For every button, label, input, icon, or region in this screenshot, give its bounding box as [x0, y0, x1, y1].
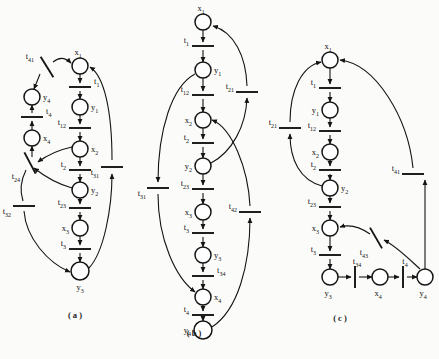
- transition-c-t43[interactable]: [370, 228, 382, 249]
- place-label-a-x2: x2: [91, 144, 98, 156]
- place-b-y1[interactable]: [195, 62, 211, 78]
- place-c-x4[interactable]: [372, 269, 388, 285]
- place-label-c-x1-subscript: 1: [329, 47, 332, 53]
- place-label-b-y3-subscript: 3: [218, 256, 221, 262]
- place-label-b-x4-subscript: 4: [218, 298, 221, 304]
- arc-b-t42-x2: [212, 120, 250, 206]
- place-label-a-y3: y3: [76, 282, 83, 294]
- place-a-x4[interactable]: [24, 130, 40, 146]
- transition-label-a-t3: t3: [61, 238, 66, 250]
- transition-label-c-t41: t41: [392, 163, 400, 175]
- place-b-x2[interactable]: [195, 112, 211, 128]
- place-a-x3[interactable]: [72, 220, 88, 236]
- place-c-x1[interactable]: [322, 52, 338, 68]
- place-label-b-y1-subscript: 1: [218, 71, 221, 77]
- place-label-a-y2: y2: [91, 185, 98, 197]
- transition-label-c-t21-subscript: 21: [271, 123, 277, 129]
- transition-label-c-t2-subscript: 2: [313, 165, 316, 171]
- transition-label-b-t1-subscript: 1: [186, 41, 189, 47]
- transition-label-a-t2: t2: [61, 159, 66, 171]
- diagram-c: t1t12t2t23t3t34t4t21t41t43x1y1x2y2x3y3x4…: [269, 41, 433, 300]
- figure-petri-nets: t1t12t2t23t3t4t41t24t32t31x1y1x2y2x3y3y4…: [0, 0, 439, 359]
- place-b-x1[interactable]: [195, 14, 211, 30]
- arc-c-t41-x1: [340, 60, 413, 168]
- transition-label-a-t12: t12: [58, 117, 66, 129]
- transition-label-a-t4-subscript: 4: [48, 112, 51, 118]
- place-label-c-y1-subscript: 1: [316, 111, 319, 117]
- place-label-c-y3: y3: [324, 288, 331, 300]
- nodes-layer: t1t12t2t23t3t4t41t24t32t31x1y1x2y2x3y3y4…: [3, 3, 433, 339]
- place-a-y4[interactable]: [24, 89, 40, 105]
- transition-label-b-t12: t12: [181, 84, 189, 96]
- diagram-a: t1t12t2t23t3t4t41t24t32t31x1y1x2y2x3y3y4…: [3, 47, 123, 294]
- place-a-y3[interactable]: [71, 262, 89, 280]
- transition-label-a-t4: t4: [46, 106, 51, 118]
- transition-label-a-t12-subscript: 12: [60, 123, 66, 129]
- transition-label-c-t23: t23: [308, 196, 316, 208]
- place-label-a-y4-subscript: 4: [47, 98, 50, 104]
- diagram-b: t1t12t2t23t3t34t4t21t31t42x1y1x2y2x3y3x4…: [138, 3, 261, 339]
- place-label-c-y4-subscript: 4: [424, 294, 427, 300]
- transition-label-c-t21: t21: [269, 117, 277, 129]
- arc-a-y2-t24: [34, 168, 72, 188]
- place-a-x2[interactable]: [72, 141, 88, 157]
- place-label-a-x3-subscript: 3: [66, 229, 69, 235]
- place-a-y1[interactable]: [72, 99, 88, 115]
- arc-a-x2-t24: [38, 147, 72, 162]
- place-c-y3[interactable]: [322, 269, 338, 285]
- place-c-y2[interactable]: [322, 180, 338, 196]
- place-c-y1[interactable]: [322, 102, 338, 118]
- place-label-c-y3-subscript: 3: [329, 294, 332, 300]
- place-label-c-x3-subscript: 3: [316, 229, 319, 235]
- transition-label-c-t1-subscript: 1: [313, 83, 316, 89]
- place-label-a-y1-subscript: 1: [95, 108, 98, 114]
- transition-label-b-t21: t21: [226, 81, 234, 93]
- place-label-a-x4-subscript: 4: [47, 139, 50, 145]
- transition-label-a-t3-subscript: 3: [63, 244, 66, 250]
- place-a-y2[interactable]: [72, 182, 88, 198]
- transition-label-c-t34: t34: [353, 256, 361, 268]
- place-label-a-x4: x4: [43, 133, 50, 145]
- place-label-b-x3: x3: [185, 207, 192, 219]
- transition-label-b-t42-subscript: 42: [231, 207, 237, 213]
- transition-label-c-t4-subscript: 4: [405, 262, 408, 268]
- transition-label-b-t31-subscript: 31: [140, 194, 146, 200]
- place-c-x3[interactable]: [322, 220, 338, 236]
- place-label-a-y1: y1: [91, 102, 98, 114]
- place-b-y2[interactable]: [195, 158, 211, 174]
- place-b-x3[interactable]: [195, 204, 211, 220]
- place-label-b-x1-subscript: 1: [202, 9, 205, 15]
- transition-label-a-t24: t24: [12, 171, 20, 183]
- place-label-b-y1: y1: [214, 65, 221, 77]
- transition-label-c-t2: t2: [311, 159, 316, 171]
- transition-label-b-t2: t2: [184, 132, 189, 144]
- arc-a-t24-t32: [21, 170, 26, 201]
- transition-label-c-t12-subscript: 12: [310, 126, 316, 132]
- arc-c-y2-t21: [290, 134, 322, 186]
- transition-label-a-t2-subscript: 2: [63, 165, 66, 171]
- transition-label-b-t3: t3: [184, 222, 189, 234]
- place-label-c-x2-subscript: 2: [316, 153, 319, 159]
- place-b-y3[interactable]: [195, 247, 211, 263]
- transition-label-b-t31: t31: [138, 188, 146, 200]
- place-a-x1[interactable]: [72, 58, 88, 74]
- transition-label-a-t31-subscript: 31: [93, 173, 99, 179]
- place-label-c-y2-subscript: 2: [345, 189, 348, 195]
- transition-label-c-t43-subscript: 43: [362, 253, 368, 259]
- arc-b-t21-x1: [213, 26, 247, 86]
- place-label-c-x1: x1: [324, 41, 331, 53]
- place-c-y4[interactable]: [417, 269, 433, 285]
- transition-a-t41[interactable]: [41, 57, 54, 77]
- arc-a-t41-y4: [34, 74, 40, 89]
- place-label-b-x1: x1: [197, 3, 204, 15]
- transition-label-c-t43: t43: [360, 247, 368, 259]
- place-label-a-y2-subscript: 2: [95, 191, 98, 197]
- arc-b-y2-t21: [211, 98, 247, 163]
- place-label-a-y4: y4: [43, 92, 50, 104]
- place-b-x4[interactable]: [195, 289, 211, 305]
- transition-label-a-t41: t41: [26, 51, 34, 63]
- place-label-c-y2: y2: [341, 183, 348, 195]
- transition-label-b-t12-subscript: 12: [183, 90, 189, 96]
- transition-label-a-t24-subscript: 24: [14, 177, 20, 183]
- place-c-x2[interactable]: [322, 144, 338, 160]
